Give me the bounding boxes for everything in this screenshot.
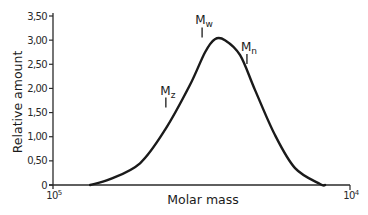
y-tick-label: 0 [41, 180, 47, 191]
y-tick-label: 1,50 [27, 107, 47, 118]
x-tick-label-left: 105 [46, 189, 62, 201]
molar-mass-distribution-chart: 00,501,001,502,002,503,003,50 105104 MzM… [0, 0, 368, 215]
annotation-Mz: Mz [160, 84, 175, 108]
y-axis-title: Relative amount [10, 51, 25, 154]
y-axis: 00,501,001,502,002,503,003,50 [27, 11, 53, 191]
annotation-Mw: Mw [195, 13, 213, 37]
x-tick-label-right: 104 [343, 189, 360, 201]
annotation-label: Mw [195, 13, 213, 29]
series-layer [90, 38, 325, 186]
y-tick-label: 1,00 [27, 131, 47, 142]
annotation-label: Mz [160, 84, 175, 100]
y-tick-label: 3,50 [27, 11, 47, 22]
y-tick-label: 2,50 [27, 59, 47, 70]
y-tick-label: 0,50 [27, 155, 47, 166]
annotation-label: Mn [241, 40, 257, 56]
distribution-curve [90, 38, 325, 186]
y-tick-label: 3,00 [27, 35, 47, 46]
x-axis-title: Molar mass [167, 192, 239, 207]
y-tick-label: 2,00 [27, 83, 47, 94]
